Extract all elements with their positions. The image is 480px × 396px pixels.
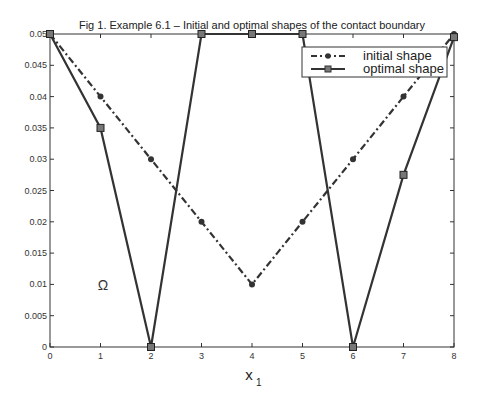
data-point-marker	[350, 344, 357, 351]
y-tick-label: 0.005	[24, 311, 47, 321]
y-tick-label: 0.05	[29, 29, 47, 39]
legend: initial shape optimal shape	[302, 47, 447, 77]
data-point-marker	[199, 219, 205, 225]
y-tick-label: 0	[42, 342, 47, 352]
data-point-marker	[47, 31, 54, 38]
chart-figure: Fig 1. Example 6.1 – Initial and optimal…	[0, 0, 480, 396]
series-line-optimal	[50, 34, 454, 347]
series-layer	[47, 31, 458, 351]
x-tick-label: 8	[451, 351, 456, 361]
data-point-marker	[148, 156, 154, 162]
data-point-marker	[249, 281, 255, 287]
y-tick-label: 0.045	[24, 60, 47, 70]
legend-initial-marker-icon	[325, 53, 331, 59]
legend-optimal-label: optimal shape	[363, 61, 444, 76]
x-tick-label: 0	[47, 351, 52, 361]
data-point-marker	[198, 31, 205, 38]
omega-annotation: Ω	[98, 277, 108, 293]
data-point-marker	[451, 34, 458, 41]
y-tick-label: 0.025	[24, 186, 47, 196]
plot-frame	[50, 34, 454, 347]
chart-title: Fig 1. Example 6.1 – Initial and optimal…	[79, 19, 426, 31]
x-tick-label: 1	[98, 351, 103, 361]
y-tick-label: 0.01	[29, 279, 47, 289]
data-point-marker	[249, 31, 256, 38]
y-tick-label: 0.02	[29, 217, 47, 227]
axes: 01234567800.0050.010.0150.020.0250.030.0…	[24, 29, 456, 361]
data-point-marker	[98, 94, 104, 100]
data-point-marker	[300, 219, 306, 225]
data-point-marker	[401, 94, 407, 100]
x-tick-label: 2	[148, 351, 153, 361]
y-tick-label: 0.015	[24, 248, 47, 258]
data-point-marker	[97, 124, 104, 131]
x-axis-label: x	[245, 366, 253, 383]
data-point-marker	[400, 171, 407, 178]
x-tick-label: 7	[401, 351, 406, 361]
data-point-marker	[148, 344, 155, 351]
y-tick-label: 0.04	[29, 92, 47, 102]
x-tick-label: 4	[249, 351, 254, 361]
y-tick-label: 0.03	[29, 154, 47, 164]
y-tick-label: 0.035	[24, 123, 47, 133]
x-tick-label: 6	[350, 351, 355, 361]
legend-optimal-marker-icon	[325, 66, 331, 72]
data-point-marker	[350, 156, 356, 162]
x-tick-label: 3	[199, 351, 204, 361]
data-point-marker	[299, 31, 306, 38]
x-axis-label-subscript: 1	[256, 377, 262, 388]
x-tick-label: 5	[300, 351, 305, 361]
